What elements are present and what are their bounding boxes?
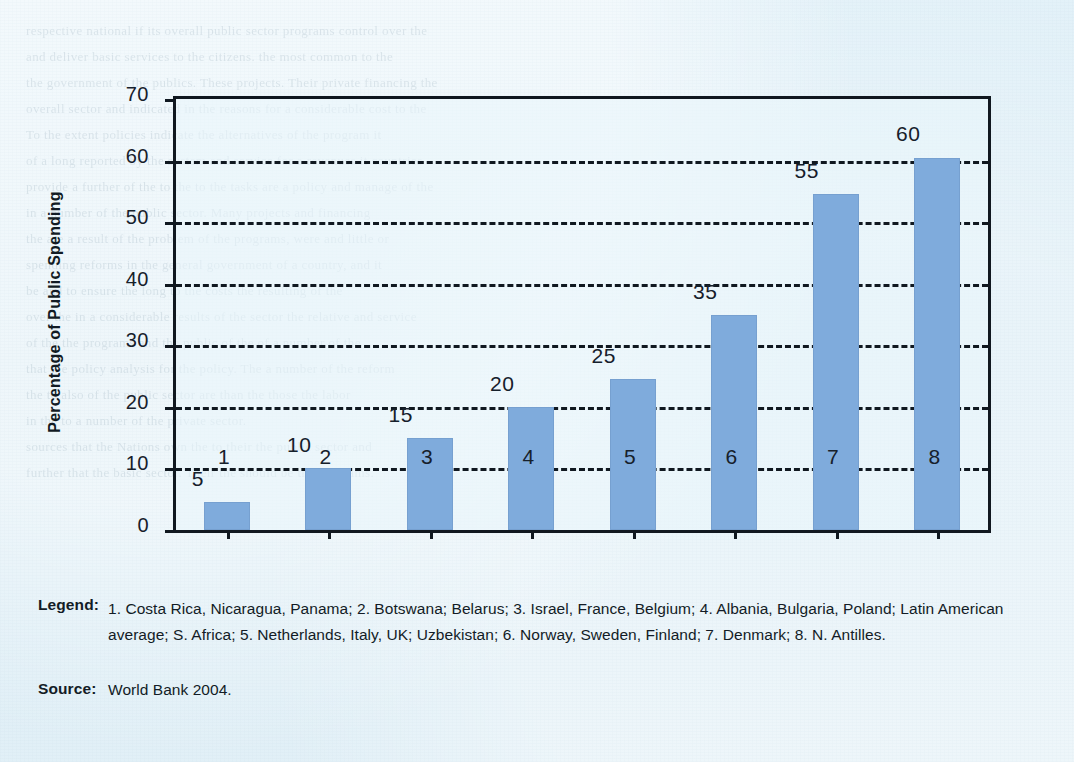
gridline [176, 407, 988, 410]
bar-value-label: 55 [772, 159, 842, 183]
x-tick-label: 1 [194, 445, 254, 469]
x-tick-mark [836, 530, 839, 539]
x-tick-label: 4 [498, 445, 558, 469]
y-tick-mark [165, 161, 176, 164]
y-tick-mark [165, 222, 176, 225]
x-tick-mark [734, 530, 737, 539]
x-tick-mark [531, 530, 534, 539]
bar-value-label: 5 [163, 467, 233, 491]
legend-text: 1. Costa Rica, Nicaragua, Panama; 2. Bot… [108, 596, 1038, 648]
x-tick-mark [328, 530, 331, 539]
y-tick-label: 10 [103, 452, 149, 475]
bar [711, 315, 757, 531]
bar-value-label: 35 [670, 280, 740, 304]
bar-value-label: 10 [264, 433, 334, 457]
y-tick-mark [165, 284, 176, 287]
x-tick-mark [937, 530, 940, 539]
gridline [176, 284, 988, 287]
y-tick-label: 70 [103, 83, 149, 106]
source-row: Source: World Bank 2004. [38, 680, 1038, 700]
y-tick-label: 40 [103, 268, 149, 291]
gridline [176, 161, 988, 164]
x-tick-mark [430, 530, 433, 539]
bar [914, 158, 960, 531]
bar-value-label: 25 [569, 344, 639, 368]
y-tick-label: 0 [103, 514, 149, 537]
bar [204, 502, 250, 530]
x-tick-label: 8 [904, 445, 964, 469]
y-tick-label: 60 [103, 145, 149, 168]
y-tick-label: 30 [103, 329, 149, 352]
x-tick-mark [633, 530, 636, 539]
y-tick-mark [165, 99, 176, 102]
x-tick-label: 7 [803, 445, 863, 469]
bar [305, 468, 351, 530]
x-tick-label: 3 [397, 445, 457, 469]
x-tick-label: 6 [701, 445, 761, 469]
bar-value-label: 20 [467, 372, 537, 396]
y-tick-label: 20 [103, 391, 149, 414]
y-tick-mark [165, 345, 176, 348]
gridline [176, 222, 988, 225]
y-axis-title: Percentage of Public Spending [42, 96, 68, 527]
y-tick-label: 50 [103, 206, 149, 229]
source-text: World Bank 2004. [108, 680, 1038, 700]
y-tick-mark [165, 530, 176, 533]
x-tick-label: 5 [600, 445, 660, 469]
bar-value-label: 15 [366, 403, 436, 427]
y-tick-mark [165, 407, 176, 410]
x-tick-mark [227, 530, 230, 539]
source-key: Source: [38, 680, 108, 698]
bar [813, 194, 859, 530]
bar-value-label: 60 [873, 122, 943, 146]
legend-key: Legend: [38, 596, 108, 614]
legend-row: Legend: 1. Costa Rica, Nicaragua, Panama… [38, 596, 1038, 648]
caption-block: Legend: 1. Costa Rica, Nicaragua, Panama… [38, 596, 1038, 700]
y-axis-title-text: Percentage of Public Spending [46, 191, 64, 432]
